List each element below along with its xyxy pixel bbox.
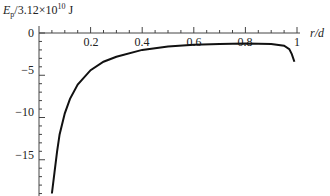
x-axis-label: r/d	[310, 26, 325, 40]
y-ticks	[39, 33, 45, 194]
chart: Ep/3.12×1010 J 0.2 0.4 0.6 0.8 1 r/d 0 −…	[0, 0, 330, 196]
x-tick-label: 1	[294, 35, 300, 49]
x-tick-label: 0.4	[135, 35, 150, 49]
y-tick-label: −10	[15, 105, 34, 119]
x-tick-label: 0.2	[84, 35, 99, 49]
y-tick-label: −15	[15, 148, 34, 162]
y-tick-label: −5	[21, 63, 34, 77]
x-tick-label: 0.8	[238, 35, 253, 49]
energy-curve	[52, 44, 295, 194]
x-ticks	[52, 27, 297, 33]
y-tick-label: 0	[28, 26, 34, 40]
y-axis-label: Ep/3.12×1010 J	[2, 2, 73, 19]
x-tick-label: 0.6	[187, 35, 202, 49]
